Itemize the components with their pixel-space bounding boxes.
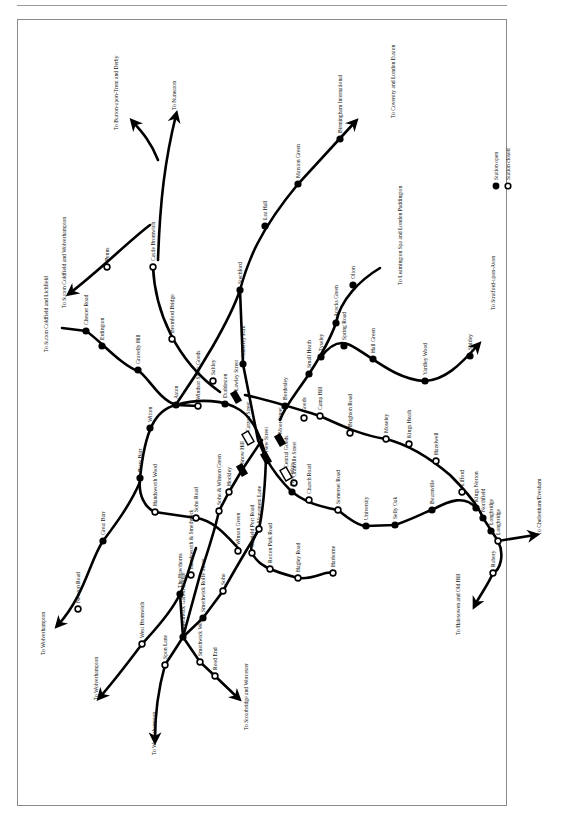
station-label: Shirley: [467, 334, 473, 350]
station-label: Lifford: [459, 470, 465, 486]
station-label: Moor Street: [277, 407, 283, 434]
station-label: Five Ways: [289, 462, 295, 486]
station-open-icon: [332, 319, 339, 326]
station-closed-icon: [335, 507, 341, 513]
station-open-icon: [99, 537, 106, 544]
station-open-icon: [294, 180, 301, 187]
destination-label: To Coventry and London Euston: [390, 45, 396, 118]
station-closed-icon: [195, 403, 201, 409]
station-label: Hall Green: [370, 328, 376, 353]
station-closed-icon: [317, 413, 323, 419]
destination-label: To Sutton Coldfield and Lichfield: [43, 276, 49, 352]
station-closed-icon: [301, 415, 307, 421]
station-label: Erdington: [99, 317, 105, 340]
station-label: University: [363, 496, 369, 520]
station-closed-icon: [433, 458, 439, 464]
station-open-icon: [261, 222, 268, 229]
station-open-icon: [336, 135, 343, 142]
station-open-icon: [305, 370, 312, 377]
station-closed-icon: [150, 264, 156, 270]
station-open-icon: [317, 353, 324, 360]
station-open-icon: [146, 424, 153, 431]
station-closed-icon: [188, 572, 194, 578]
station-open-icon: [362, 522, 369, 529]
station-open-icon: [179, 633, 186, 640]
station-label: Icknield Port Road: [249, 505, 255, 547]
station-label: Marston Green: [295, 144, 301, 178]
station-label: Witton: [147, 406, 153, 422]
station-label: Rotton Park Road: [267, 523, 273, 563]
station-open-icon: [391, 521, 398, 528]
station-open-icon: [221, 400, 228, 407]
station-label: Monument Lane: [256, 485, 262, 523]
station-label: Longbridge: [495, 508, 501, 535]
station-closed-icon: [162, 662, 168, 668]
destination-label: To Nuneaton: [171, 81, 177, 110]
station-open-icon: [472, 504, 479, 511]
destination-label: To Leamington Spa and London Paddington: [397, 186, 403, 285]
station-label: Hazelwell: [433, 432, 439, 455]
goods-station-icon: [230, 390, 242, 404]
legend-closed-icon: [505, 183, 511, 189]
station-label: Hagley Road: [295, 542, 301, 572]
station-label: Bromford Bridge: [169, 294, 175, 333]
station-closed-icon: [295, 575, 301, 581]
legend-open-icon: [493, 183, 500, 190]
station-open-icon: [428, 506, 435, 513]
station-label: Hockley: [226, 467, 232, 486]
station-label: Newton Road: [75, 572, 81, 603]
station-label: Somerset Road: [335, 470, 341, 504]
station-closed-icon: [383, 436, 389, 442]
station-closed-icon: [212, 673, 218, 679]
station-closed-icon: [75, 606, 81, 612]
station-open-icon: [487, 527, 494, 534]
station-label: Kings Heath: [406, 410, 412, 438]
station-label: Smethwick Galton Bridge: [180, 572, 186, 631]
station-label: Northfield: [480, 488, 486, 512]
station-label: Chester Road: [83, 295, 89, 325]
station-label: Great Barr: [100, 511, 106, 535]
station-closed-icon: [306, 497, 312, 503]
station-label: Handsworth & Smethwick: [188, 509, 194, 569]
station-label: Small Heath: [306, 340, 312, 368]
station-label: Olton: [350, 266, 356, 279]
station-label: Brighton Road: [347, 394, 353, 427]
destination-label: To Sutton Coldfield and Wolverhampton: [61, 217, 67, 308]
station-label: Selly Oak: [392, 497, 398, 519]
station-label: Moseley: [383, 414, 389, 433]
track-lines: [58, 115, 535, 740]
station-open-icon: [421, 377, 428, 384]
station-label: Saltley: [210, 359, 216, 375]
station-closed-icon: [267, 566, 273, 572]
station-label: Soho & Winson Green: [216, 454, 222, 505]
station-open-icon: [349, 281, 356, 288]
station-label: Snow Hill: [239, 441, 245, 464]
station-open-icon: [134, 366, 141, 373]
station-closed-icon: [226, 489, 232, 495]
legend: Station open Station closed: [493, 148, 511, 189]
station-label: Penns: [104, 248, 110, 261]
station-label: Bordesley: [282, 377, 288, 400]
station-closed-icon: [256, 526, 262, 532]
destination-label: To Wolverhampton: [93, 657, 99, 700]
station-label: Soho: [220, 573, 226, 585]
station-closed-icon: [406, 441, 412, 447]
station-label: Gravelly Hill: [135, 334, 141, 364]
station-closed-icon: [139, 641, 145, 647]
station-label: Kings Norton: [473, 471, 479, 502]
station-closed-icon: [152, 509, 158, 515]
station-label: Rubery: [490, 550, 496, 567]
station-open-icon: [479, 514, 486, 521]
destination-label: To Halesowen and Old Hill: [455, 573, 461, 635]
station-label: Windsor Street Goods: [195, 351, 201, 401]
station-closed-icon: [347, 430, 353, 436]
station-closed-icon: [210, 378, 216, 384]
station-open-icon: [82, 327, 89, 334]
destination-label: To Burton-upon-Trent and Derby: [113, 55, 119, 130]
station-label: Birmingham International: [337, 74, 343, 133]
railway-map: PennsCastle BromwichBromford BridgeSaltl…: [0, 0, 576, 814]
station-closed-icon: [249, 550, 255, 556]
destination-label: To Stourbridge and Worcester: [243, 663, 249, 730]
station-label: Lea Hall: [262, 200, 268, 220]
station-label: Carzon Street: [245, 401, 251, 432]
